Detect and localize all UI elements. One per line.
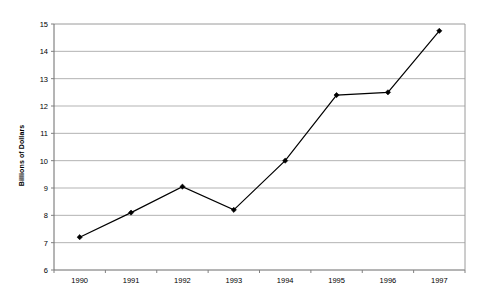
data-series	[80, 31, 440, 237]
gridlines	[54, 24, 465, 243]
series-line	[80, 31, 440, 237]
plot-canvas	[0, 0, 484, 305]
data-point-marker	[128, 210, 133, 215]
data-markers	[77, 28, 442, 240]
line-chart: Billions of Dollars 6789101112131415 199…	[0, 0, 484, 305]
data-point-marker	[77, 235, 82, 240]
axis-lines	[54, 24, 465, 270]
